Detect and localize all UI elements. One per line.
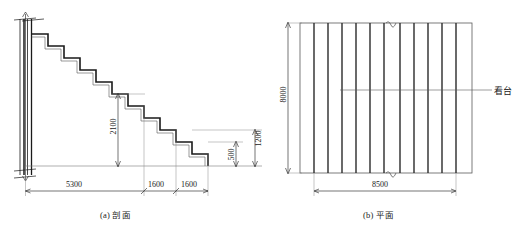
dimension-label-1200: 1200	[254, 124, 263, 154]
dimension-label-8500: 8500	[372, 180, 388, 189]
dimension-label-5300: 5300	[66, 180, 82, 189]
caption-section: (a) 剖面	[100, 208, 131, 220]
canvas-background	[0, 0, 528, 237]
dimension-label-8000: 8000	[279, 78, 288, 112]
dimension-label-500: 500	[227, 140, 236, 170]
caption-plan: (b) 平面	[363, 208, 394, 220]
dimension-label-1600-b: 1600	[181, 180, 197, 189]
grandstand-label: 看台	[494, 84, 512, 97]
dimension-label-1600-a: 1600	[148, 180, 164, 189]
dimension-label-2100: 2100	[109, 112, 118, 142]
technical-drawing-figure	[0, 0, 528, 237]
